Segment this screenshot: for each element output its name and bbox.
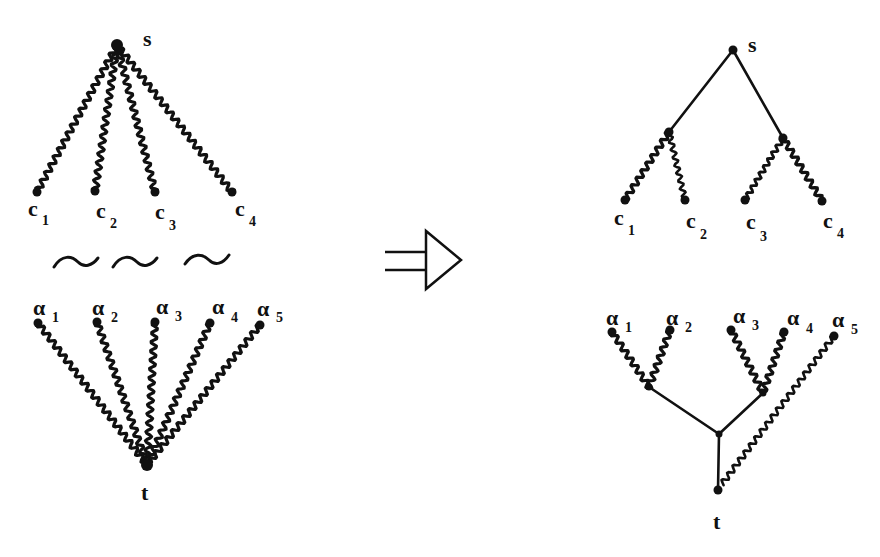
svg-text:α: α	[156, 294, 169, 319]
source-node-dot	[111, 39, 123, 51]
svg-text:4: 4	[231, 310, 238, 325]
svg-text:4: 4	[249, 214, 256, 229]
wavy-edge	[782, 138, 823, 203]
internal-node-dot	[646, 384, 653, 391]
svg-text:2: 2	[110, 216, 117, 231]
straight-edge	[719, 393, 763, 434]
svg-text:c: c	[823, 208, 833, 233]
svg-text:1: 1	[52, 310, 59, 325]
left-alpha-label-4: α4	[212, 294, 238, 325]
sink-node-dot	[714, 486, 723, 495]
wavy-edge	[92, 45, 118, 191]
implies-arrow-icon	[385, 231, 461, 289]
svg-text:α: α	[92, 295, 105, 320]
internal-node-dot	[716, 431, 723, 438]
svg-text:3: 3	[760, 229, 767, 244]
tilde-icon	[113, 257, 157, 267]
svg-text:2: 2	[700, 227, 707, 242]
svg-text:α: α	[33, 295, 46, 320]
sink-node-dot	[141, 459, 153, 471]
svg-text:α: α	[257, 296, 270, 321]
internal-node-dot	[665, 128, 674, 137]
right-c-label-2: c2	[686, 208, 707, 242]
svg-text:c: c	[28, 196, 38, 221]
left-alpha-label-5: α5	[257, 296, 283, 325]
wavy-edge	[37, 323, 149, 464]
internal-node-dot	[729, 46, 738, 55]
svg-text:4: 4	[837, 226, 844, 241]
right-graph	[608, 46, 839, 495]
c-node-dot	[621, 196, 630, 205]
svg-text:α: α	[832, 307, 845, 332]
left-alpha-label-3: α3	[156, 294, 182, 324]
svg-text:1: 1	[42, 213, 49, 228]
svg-text:3: 3	[175, 309, 182, 324]
svg-text:3: 3	[169, 218, 176, 233]
c-node-dot	[681, 196, 690, 205]
svg-text:c: c	[155, 199, 165, 224]
right-c-label-4: c4	[823, 208, 844, 241]
svg-text:2: 2	[685, 320, 692, 335]
right-sink-label: t	[713, 509, 721, 534]
svg-text:α: α	[787, 305, 800, 330]
wavy-edge	[625, 132, 669, 200]
diagram-canvas: s t c1 c2 c3 c4 α1 α2 α3 α4 α5 s t c1 c2…	[0, 0, 880, 557]
alpha-node-dot	[256, 321, 265, 330]
right-c-label-1: c1	[614, 205, 635, 238]
c-node-dot	[741, 196, 750, 205]
svg-text:c: c	[235, 196, 245, 221]
svg-text:4: 4	[806, 321, 813, 336]
svg-text:c: c	[746, 209, 756, 234]
svg-text:5: 5	[276, 310, 283, 325]
wavy-edge	[761, 332, 785, 392]
tilde-icon	[185, 255, 229, 264]
wavy-edge	[611, 332, 649, 388]
right-alpha-label-3: α3	[733, 303, 759, 333]
straight-edge	[649, 387, 719, 434]
svg-text:c: c	[96, 198, 106, 223]
svg-text:3: 3	[752, 318, 759, 333]
svg-text:c: c	[686, 208, 696, 233]
left-c-label-4: c4	[235, 196, 256, 229]
left-c-label-3: c3	[155, 199, 176, 233]
straight-edge	[733, 50, 783, 138]
svg-text:α: α	[666, 305, 679, 330]
equivalence-symbols	[54, 255, 229, 267]
svg-text:α: α	[212, 294, 225, 319]
right-c-label-3: c3	[746, 209, 767, 244]
wavy-edge	[115, 45, 157, 192]
tilde-icon	[54, 257, 98, 267]
left-source-label: s	[143, 26, 152, 51]
left-sink-label: t	[141, 480, 149, 505]
svg-text:α: α	[606, 305, 619, 330]
c-node-dot	[91, 187, 100, 196]
c-node-dot	[818, 197, 827, 206]
wavy-edge	[95, 322, 150, 464]
alpha-node-dot	[830, 332, 839, 341]
svg-text:2: 2	[111, 310, 118, 325]
internal-node-dot	[760, 390, 767, 397]
c-node-dot	[151, 188, 160, 197]
right-alpha-label-4: α4	[787, 305, 813, 336]
svg-text:5: 5	[851, 322, 858, 337]
wavy-edge	[144, 322, 157, 465]
straight-edge	[669, 50, 733, 132]
left-c-label-1: c1	[28, 196, 49, 228]
wavy-edge	[744, 138, 783, 200]
svg-text:c: c	[614, 205, 624, 230]
wavy-edge	[648, 330, 671, 388]
alpha-node-dot	[206, 319, 215, 328]
wavy-edge	[667, 132, 687, 199]
svg-text:α: α	[733, 303, 746, 328]
right-source-label: s	[748, 32, 757, 57]
left-c-label-2: c2	[96, 198, 117, 231]
straight-edge	[718, 434, 719, 490]
internal-node-dot	[779, 134, 788, 143]
svg-text:1: 1	[628, 223, 635, 238]
svg-text:1: 1	[625, 320, 632, 335]
wavy-edge	[729, 330, 765, 392]
